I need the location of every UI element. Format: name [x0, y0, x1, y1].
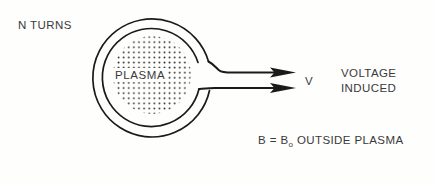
figure-root: N TURNS PLASMA V VOLTAGEINDUCED B = Bo O… — [0, 0, 434, 183]
label-plasma: PLASMA — [113, 68, 167, 82]
label-b-field-equation: B = Bo OUTSIDE PLASMA — [258, 134, 403, 146]
lead-lower — [199, 88, 278, 89]
lead-upper — [209, 62, 279, 73]
b-field-prefix: B = B — [258, 134, 288, 146]
label-voltage-line1: VOLTAGE — [341, 67, 396, 79]
label-n-turns: N TURNS — [18, 19, 72, 31]
label-voltage-line2: INDUCED — [341, 81, 396, 96]
label-voltage-induced: VOLTAGEINDUCED — [341, 66, 396, 96]
b-field-subscript: o — [288, 140, 293, 149]
b-field-suffix: OUTSIDE PLASMA — [293, 134, 403, 146]
label-induced-voltage-symbol: V — [305, 75, 313, 87]
